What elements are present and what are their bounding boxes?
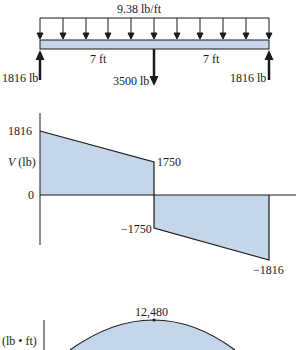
moment-peak-label: 12,480: [135, 306, 168, 318]
point-load-label: 3500 lb: [113, 75, 149, 87]
shear-tick-top: 1816: [8, 125, 32, 137]
reaction-right-label: 1816 lb: [230, 72, 266, 84]
shear-value-neg1816: −1816: [253, 264, 284, 276]
shear-value-1750: 1750: [157, 156, 181, 168]
distributed-load-label: 9.38 lb/ft: [117, 3, 161, 15]
span-right-label: 7 ft: [203, 53, 219, 65]
moment-axis-label: (lb • ft): [2, 335, 37, 347]
beam-diagrams: [0, 0, 299, 350]
shear-value-neg1750: −1750: [121, 223, 152, 235]
moment-diagram: [44, 318, 235, 350]
reaction-left-label: 1816 lb: [2, 72, 38, 84]
span-left-label: 7 ft: [90, 53, 106, 65]
shear-tick-zero: 0: [28, 189, 34, 201]
beam: [40, 40, 269, 49]
point-load-arrow: [150, 49, 159, 86]
shear-axis-label: V (lb): [8, 156, 36, 168]
distributed-load: [37, 18, 272, 39]
shear-axis-unit: (lb): [18, 155, 35, 169]
shear-diagram: [40, 113, 296, 260]
